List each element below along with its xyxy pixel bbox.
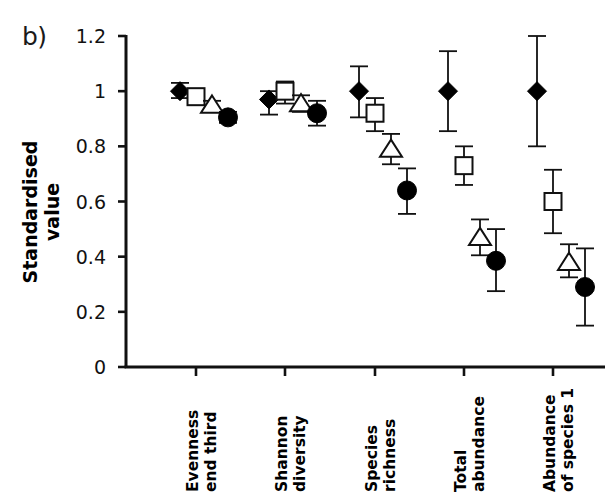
- x-tick-label-line1: Shannon: [273, 416, 291, 492]
- x-tick-label: Totalabundance: [453, 396, 488, 492]
- x-tick-label-line2: of species 1: [560, 388, 578, 492]
- data-point-group: [528, 36, 547, 146]
- x-tick-label-line1: Evenness: [184, 410, 202, 492]
- data-point-group: [544, 170, 562, 233]
- data-point-group: [366, 98, 384, 131]
- x-tick-label: Shannondiversity: [274, 415, 309, 492]
- data-point-group: [398, 168, 417, 214]
- data-point-group: [455, 146, 473, 185]
- marker-diamond-filled: [528, 82, 547, 101]
- marker-circle-filled: [398, 181, 417, 200]
- data-point-group: [576, 248, 595, 325]
- marker-circle-filled: [576, 278, 595, 297]
- marker-diamond-filled: [439, 82, 458, 101]
- data-point-group: [380, 134, 402, 164]
- marker-triangle-open: [558, 253, 580, 270]
- x-tick-label-line2: richness: [382, 419, 400, 492]
- marker-square-open: [367, 105, 384, 122]
- figure-panel-b: b) Standardised value 00.20.40.60.811.2 …: [0, 0, 616, 504]
- data-point-group: [187, 88, 205, 105]
- x-tick-label: Evennessend third: [185, 410, 220, 492]
- marker-square-open: [277, 83, 294, 100]
- data-point-group: [487, 229, 506, 291]
- data-point-group: [439, 51, 458, 131]
- x-tick-label-line2: diversity: [292, 415, 310, 492]
- marker-square-open: [188, 88, 205, 105]
- x-tick-label-line1: Abundance: [541, 395, 559, 492]
- marker-square-open: [456, 157, 473, 174]
- x-tick-label: Speciesrichness: [364, 419, 399, 492]
- marker-circle-filled: [308, 104, 327, 123]
- data-point-group: [469, 219, 491, 255]
- x-tick-label-line2: end third: [203, 410, 221, 492]
- marker-triangle-open: [380, 140, 402, 157]
- data-point-group: [219, 108, 238, 127]
- data-point-group: [308, 101, 327, 126]
- x-tick-label-line1: Total: [452, 450, 470, 492]
- marker-circle-filled: [219, 108, 238, 127]
- x-tick-label-line1: Species: [363, 425, 381, 492]
- data-point-group: [276, 82, 294, 104]
- marker-square-open: [545, 193, 562, 210]
- marker-circle-filled: [487, 251, 506, 270]
- marker-triangle-open: [469, 228, 491, 245]
- marker-diamond-filled: [350, 82, 369, 101]
- x-tick-label: Abundanceof species 1: [542, 388, 577, 492]
- x-tick-label-line2: abundance: [471, 396, 489, 492]
